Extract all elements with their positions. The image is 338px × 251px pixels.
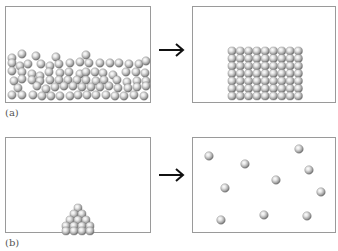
particle bbox=[269, 84, 277, 92]
particle bbox=[286, 92, 294, 100]
particle bbox=[269, 92, 277, 100]
particle bbox=[245, 54, 253, 62]
particle bbox=[228, 47, 236, 55]
particle bbox=[303, 212, 312, 221]
particle bbox=[278, 69, 286, 77]
particle bbox=[102, 91, 110, 99]
particle bbox=[236, 77, 244, 85]
particle bbox=[142, 82, 150, 90]
particle bbox=[133, 83, 141, 91]
arrow-icon bbox=[158, 42, 186, 58]
particle bbox=[132, 68, 140, 76]
particle bbox=[236, 92, 244, 100]
particle bbox=[269, 62, 277, 70]
particle bbox=[261, 54, 269, 62]
particle bbox=[45, 68, 53, 76]
particle bbox=[91, 68, 99, 76]
particle bbox=[86, 227, 94, 235]
particle bbox=[221, 184, 230, 193]
particle bbox=[62, 227, 70, 235]
particle bbox=[245, 69, 253, 77]
pyramid-particles bbox=[62, 204, 94, 235]
particle bbox=[278, 77, 286, 85]
solid-lattice-particles bbox=[228, 47, 303, 100]
particle bbox=[294, 54, 302, 62]
particle bbox=[115, 59, 123, 67]
particle bbox=[253, 84, 261, 92]
particle bbox=[253, 69, 261, 77]
liquid-particles bbox=[8, 50, 150, 100]
particle bbox=[18, 91, 26, 99]
particle bbox=[236, 47, 244, 55]
particle bbox=[140, 92, 148, 100]
particle bbox=[33, 82, 41, 90]
particle bbox=[294, 92, 302, 100]
particle bbox=[286, 69, 294, 77]
particle bbox=[286, 77, 294, 85]
particle bbox=[8, 67, 16, 75]
particle bbox=[113, 76, 121, 84]
particle bbox=[70, 227, 78, 235]
particle bbox=[261, 47, 269, 55]
particle bbox=[253, 77, 261, 85]
particles-layer bbox=[0, 0, 338, 251]
panel-a-label: (a) bbox=[5, 107, 19, 118]
particle bbox=[236, 69, 244, 77]
particle bbox=[69, 82, 77, 90]
particle bbox=[82, 68, 90, 76]
particle bbox=[141, 69, 149, 77]
particle bbox=[245, 62, 253, 70]
particle bbox=[125, 60, 133, 68]
particle bbox=[278, 62, 286, 70]
particle bbox=[253, 54, 261, 62]
particle bbox=[78, 227, 86, 235]
particle bbox=[241, 160, 250, 169]
particle bbox=[66, 59, 74, 67]
particle bbox=[245, 84, 253, 92]
particle bbox=[96, 83, 104, 91]
particle bbox=[286, 62, 294, 70]
particle bbox=[8, 91, 16, 99]
particle bbox=[217, 216, 226, 225]
particle bbox=[253, 62, 261, 70]
particle bbox=[228, 69, 236, 77]
particle bbox=[18, 50, 26, 58]
particle bbox=[278, 54, 286, 62]
particle bbox=[111, 92, 119, 100]
particle bbox=[120, 92, 128, 100]
particle bbox=[24, 60, 32, 68]
particle bbox=[261, 69, 269, 77]
particle bbox=[114, 84, 122, 92]
panel-b-label: (b) bbox=[5, 237, 19, 248]
particle bbox=[130, 91, 138, 99]
particle bbox=[294, 62, 302, 70]
particle bbox=[278, 92, 286, 100]
particle bbox=[261, 77, 269, 85]
particle bbox=[96, 59, 104, 67]
particle bbox=[74, 91, 82, 99]
particle bbox=[60, 82, 68, 90]
particle bbox=[66, 92, 74, 100]
particle bbox=[245, 47, 253, 55]
particle bbox=[56, 92, 64, 100]
particle bbox=[236, 62, 244, 70]
particle bbox=[65, 68, 73, 76]
particle bbox=[55, 60, 63, 68]
particle bbox=[228, 84, 236, 92]
particle bbox=[228, 77, 236, 85]
particle bbox=[295, 145, 304, 154]
particle bbox=[205, 152, 214, 161]
particle bbox=[87, 83, 95, 91]
particle bbox=[261, 62, 269, 70]
particle bbox=[142, 57, 150, 65]
arrow-icon bbox=[158, 167, 186, 183]
particle bbox=[236, 84, 244, 92]
particle bbox=[253, 47, 261, 55]
particle bbox=[253, 92, 261, 100]
particle bbox=[272, 176, 281, 185]
particle bbox=[47, 92, 55, 100]
particle bbox=[78, 83, 86, 91]
particle bbox=[317, 188, 326, 197]
particle bbox=[261, 84, 269, 92]
particle bbox=[286, 47, 294, 55]
